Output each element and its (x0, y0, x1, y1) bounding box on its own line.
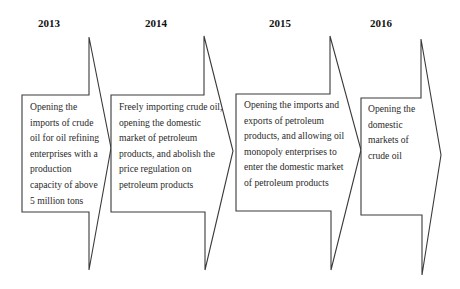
desc-line: crude oil (368, 148, 415, 164)
desc-line: domestic (368, 117, 415, 133)
desc-line: price regulation on (119, 161, 222, 177)
desc-line: opening the domestic (119, 115, 222, 131)
desc-line: imports of crude (30, 115, 99, 131)
year-label-2016: 2016 (351, 17, 411, 29)
desc-line: monopoly enterprises to (244, 144, 344, 160)
desc-line: capacity of above (30, 177, 99, 193)
desc-line: Freely importing crude oil, (119, 99, 222, 115)
year-label-2014: 2014 (126, 17, 186, 29)
step-description-2013: Opening the imports of crude oil for oil… (30, 99, 99, 208)
desc-line: Opening the (368, 101, 415, 117)
desc-line: Opening the imports and (244, 97, 344, 113)
desc-line: Opening the (30, 99, 99, 115)
desc-line: enter the domestic market (244, 159, 344, 175)
step-description-2014: Freely importing crude oil, opening the … (119, 99, 222, 193)
desc-line: products, and allowing oil (244, 128, 344, 144)
desc-line: products, and abolish the (119, 146, 222, 162)
step-description-2015: Opening the imports and exports of petro… (244, 97, 344, 191)
desc-line: exports of petroleum (244, 113, 344, 129)
desc-line: oil for oil refining (30, 130, 99, 146)
year-label-2013: 2013 (19, 17, 79, 29)
year-label-2015: 2015 (250, 17, 310, 29)
desc-line: markets of (368, 132, 415, 148)
desc-line: 5 million tons (30, 193, 99, 209)
desc-line: production (30, 161, 99, 177)
step-description-2016: Opening the domestic markets of crude oi… (368, 101, 415, 163)
desc-line: petroleum products (119, 177, 222, 193)
policy-timeline-diagram: 2013 2014 2015 2016 Opening the imports … (0, 0, 460, 289)
desc-line: of petroleum products (244, 175, 344, 191)
desc-line: market of petroleum (119, 130, 222, 146)
desc-line: enterprises with a (30, 146, 99, 162)
